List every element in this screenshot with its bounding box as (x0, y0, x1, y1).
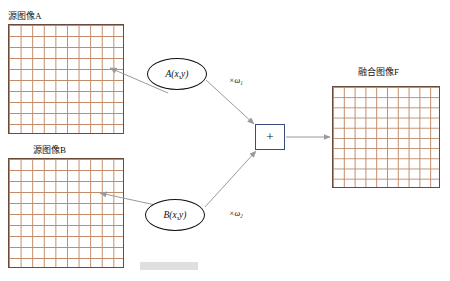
node-b-xy: B(x,y) (145, 199, 205, 231)
adder-label: + (266, 129, 273, 145)
weight-omega-1-label: ×ω₁ (229, 76, 243, 85)
diagram-canvas: 源图像A 源图像B 融合图像F A(x,y) B(x,y) ×ω₁ ×ω₂ + (0, 0, 450, 281)
arrow-axy-to-adder (206, 80, 254, 124)
arrow-bxy-to-adder (205, 151, 256, 207)
weight-omega-2-label: ×ω₂ (229, 209, 243, 218)
node-a-xy: A(x,y) (147, 58, 207, 90)
adder-node: + (255, 124, 285, 150)
node-a-xy-label: A(x,y) (166, 69, 189, 79)
scan-artifact (140, 262, 198, 270)
node-b-xy-label: B(x,y) (164, 210, 187, 220)
arrow-layer (0, 0, 450, 281)
